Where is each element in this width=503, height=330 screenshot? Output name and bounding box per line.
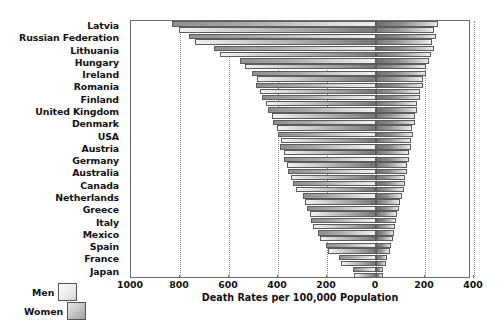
category-label: Italy — [0, 217, 124, 229]
bar-row — [131, 33, 469, 45]
bar-row — [131, 168, 469, 180]
bar-row — [131, 230, 469, 242]
bar-men-right-segment — [376, 169, 407, 174]
bar-women-right-segment — [376, 162, 407, 167]
bar-women-right-segment — [376, 224, 395, 229]
category-label: Lithuania — [0, 45, 124, 57]
bar-row — [131, 132, 469, 144]
category-label: USA — [0, 131, 124, 143]
bar-row — [131, 267, 469, 279]
bar-men — [353, 267, 376, 272]
bar-men-right-segment — [376, 58, 429, 63]
bar-men-right-segment — [376, 71, 426, 76]
bar-row — [131, 144, 469, 156]
bar-women — [328, 248, 376, 253]
bar-men — [288, 169, 376, 174]
x-tick-mark — [326, 275, 327, 278]
bar-women-right-segment — [376, 187, 404, 192]
bar-men — [278, 132, 376, 137]
plot-area — [130, 20, 470, 278]
bar-women-right-segment — [376, 236, 393, 241]
bar-men — [311, 218, 376, 223]
x-tick-mark — [228, 275, 229, 278]
bar-women — [179, 27, 376, 32]
bar-women-right-segment — [376, 76, 423, 81]
bar-men — [252, 71, 376, 76]
bar-men — [307, 206, 376, 211]
bar-women — [272, 113, 376, 118]
bar-women — [287, 162, 376, 167]
bar-women-right-segment — [376, 64, 426, 69]
bar-row — [131, 193, 469, 205]
bar-women-right-segment — [376, 175, 405, 180]
bar-women — [313, 224, 376, 229]
category-label: Ireland — [0, 69, 124, 81]
bar-women — [220, 52, 376, 57]
bar-men-right-segment — [376, 255, 387, 260]
bar-women-right-segment — [376, 199, 400, 204]
x-axis-title: Death Rates per 100,000 Population — [130, 292, 470, 303]
bar-women-right-segment — [376, 101, 417, 106]
bar-men-right-segment — [376, 181, 405, 186]
bar-women — [310, 211, 376, 216]
category-label: Spain — [0, 241, 124, 253]
bar-women — [320, 236, 376, 241]
bar-row — [131, 21, 469, 33]
bar-row — [131, 156, 469, 168]
bar-women — [245, 64, 376, 69]
x-tick-mark — [277, 275, 278, 278]
category-label: Finland — [0, 94, 124, 106]
bar-men-right-segment — [376, 218, 396, 223]
category-label: Australia — [0, 167, 124, 179]
bar-women — [260, 89, 376, 94]
bar-men-right-segment — [376, 34, 436, 39]
bar-men-right-segment — [376, 46, 434, 51]
bar-men — [318, 230, 376, 235]
x-axis-ticks: 10008006004002000200400 — [130, 279, 470, 293]
x-tick-mark — [179, 275, 180, 278]
legend-label-men: Men — [32, 287, 54, 298]
legend-item-women: Women — [24, 302, 86, 320]
category-label: Austria — [0, 143, 124, 155]
bar-men — [293, 181, 376, 186]
bar-women-right-segment — [376, 89, 420, 94]
bar-women — [305, 199, 376, 204]
bar-women — [296, 187, 376, 192]
bar-row — [131, 119, 469, 131]
category-label: United Kingdom — [0, 106, 124, 118]
bar-women — [281, 138, 376, 143]
category-label: Romania — [0, 81, 124, 93]
bar-women-right-segment — [376, 138, 411, 143]
bar-men-right-segment — [376, 132, 413, 137]
bar-women-right-segment — [376, 113, 415, 118]
bar-row — [131, 218, 469, 230]
bar-men-right-segment — [376, 144, 411, 149]
bar-men — [273, 120, 376, 125]
bar-women — [266, 101, 376, 106]
category-label: Russian Federation — [0, 32, 124, 44]
bar-row — [131, 254, 469, 266]
bar-row — [131, 58, 469, 70]
bar-men — [172, 21, 376, 26]
bar-women-right-segment — [376, 52, 431, 57]
x-tick-label: 0 — [372, 279, 379, 290]
legend-label-women: Women — [24, 306, 63, 317]
gridline — [474, 21, 475, 277]
bar-series-layer — [131, 21, 469, 277]
legend-swatch-women-icon — [67, 302, 86, 320]
bar-men-right-segment — [376, 206, 399, 211]
bar-men-right-segment — [376, 157, 409, 162]
category-label: Mexico — [0, 229, 124, 241]
bar-women-right-segment — [376, 27, 434, 32]
x-tick-label: 400 — [267, 279, 287, 290]
category-label: Latvia — [0, 20, 124, 32]
category-axis-labels: LatviaRussian FederationLithuaniaHungary… — [0, 20, 124, 278]
category-label: Japan — [0, 266, 124, 278]
x-tick-mark — [375, 275, 376, 278]
bar-row — [131, 107, 469, 119]
bar-men — [326, 243, 376, 248]
bar-row — [131, 181, 469, 193]
legend-item-men: Men — [32, 283, 77, 301]
bar-men — [284, 157, 376, 162]
bar-row — [131, 70, 469, 82]
